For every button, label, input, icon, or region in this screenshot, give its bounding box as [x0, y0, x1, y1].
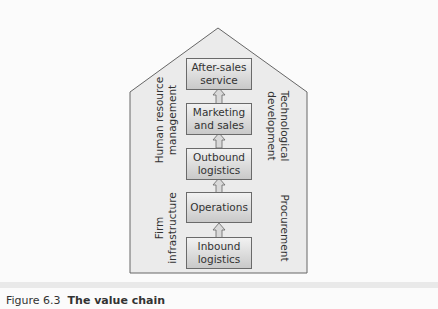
box-label: logistics: [193, 164, 245, 177]
activity-operations: Operations: [186, 192, 252, 223]
box-label: Operations: [190, 201, 248, 214]
label-line: development: [265, 71, 278, 181]
support-technological-development: Technological development: [265, 71, 291, 181]
box-label: Marketing: [193, 106, 245, 119]
label-line: Firm: [153, 178, 166, 278]
box-label: After-sales: [191, 61, 246, 74]
support-procurement: Procurement: [278, 178, 291, 278]
box-label: and sales: [193, 119, 245, 132]
box-label: service: [191, 74, 246, 87]
activity-after-sales-service: After-salesservice: [186, 58, 252, 90]
activity-marketing-and-sales: Marketingand sales: [186, 103, 252, 135]
label-line: management: [166, 65, 179, 175]
box-label: Inbound: [198, 240, 241, 253]
box-label: logistics: [198, 253, 241, 266]
figure-number: Figure 6.3: [6, 294, 61, 307]
activity-outbound-logistics: Outboundlogistics: [186, 148, 252, 180]
label-line: Human resource: [153, 65, 166, 175]
label-line: Technological: [278, 71, 291, 181]
support-firm-infrastructure: Firm infrastructure: [153, 178, 179, 278]
box-label: Outbound: [193, 151, 245, 164]
support-human-resource-management: Human resource management: [153, 65, 179, 175]
figure-title: The value chain: [68, 294, 166, 307]
label-line: infrastructure: [166, 178, 179, 278]
figure-caption: Figure 6.3 The value chain: [6, 294, 165, 307]
label-line: Procurement: [278, 178, 291, 278]
activity-inbound-logistics: Inboundlogistics: [186, 237, 252, 269]
